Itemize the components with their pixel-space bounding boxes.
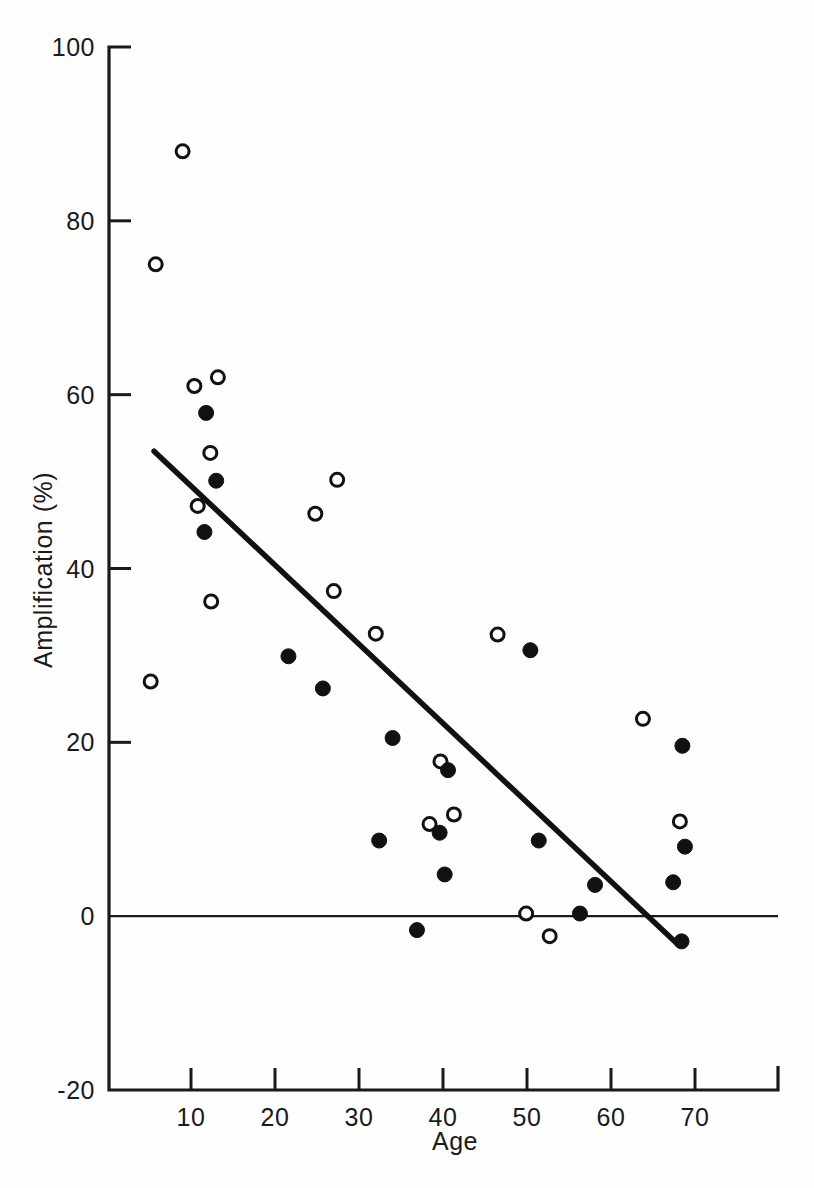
data-point-open — [309, 507, 322, 520]
data-point-open — [211, 371, 224, 384]
y-tick-label: 0 — [81, 902, 95, 930]
data-point-open — [205, 595, 218, 608]
tick-labels-group: -2002040608010010203040506070 — [52, 33, 710, 1131]
data-point-open — [369, 627, 382, 640]
y-axis-title: Amplification (%) — [29, 472, 57, 668]
data-point-filled — [523, 643, 538, 658]
data-point-filled — [437, 867, 452, 882]
data-point-open — [491, 628, 504, 641]
data-point-filled — [209, 473, 224, 488]
data-point-filled — [666, 875, 681, 890]
data-point-open — [673, 815, 686, 828]
y-tick-label: -20 — [57, 1076, 95, 1104]
x-tick-label: 70 — [681, 1103, 710, 1131]
x-tick-label: 50 — [513, 1103, 542, 1131]
regression-line — [154, 451, 678, 945]
data-point-filled — [432, 825, 447, 840]
y-tick-label: 60 — [66, 381, 95, 409]
y-tick-label: 80 — [66, 207, 95, 235]
data-point-open — [149, 258, 162, 271]
figure-container: -2002040608010010203040506070 Age Amplif… — [0, 0, 814, 1188]
x-tick-label: 30 — [345, 1103, 374, 1131]
axis-spines — [109, 47, 778, 1090]
data-point-open — [636, 712, 649, 725]
data-point-open — [144, 675, 157, 688]
data-point-filled — [441, 763, 456, 778]
data-point-open — [447, 808, 460, 821]
y-tick-label: 100 — [52, 33, 95, 61]
data-point-open — [191, 499, 204, 512]
y-tick-label: 20 — [66, 728, 95, 756]
data-point-filled — [197, 524, 212, 539]
data-point-filled — [531, 833, 546, 848]
data-point-open — [543, 930, 556, 943]
data-point-open — [188, 379, 201, 392]
data-point-filled — [674, 934, 689, 949]
data-point-filled — [677, 839, 692, 854]
x-axis-title: Age — [432, 1127, 478, 1155]
data-points-group — [144, 145, 692, 949]
data-point-open — [327, 585, 340, 598]
data-point-open — [176, 145, 189, 158]
data-point-filled — [385, 730, 400, 745]
data-point-open — [331, 473, 344, 486]
data-point-filled — [315, 681, 330, 696]
data-point-open — [204, 446, 217, 459]
scatter-plot: -2002040608010010203040506070 Age Amplif… — [0, 0, 814, 1188]
x-tick-label: 10 — [177, 1103, 206, 1131]
axes-group — [109, 47, 778, 1090]
x-tick-label: 20 — [261, 1103, 290, 1131]
data-point-filled — [372, 833, 387, 848]
data-point-filled — [572, 906, 587, 921]
data-point-filled — [588, 877, 603, 892]
x-tick-label: 60 — [597, 1103, 626, 1131]
y-tick-label: 40 — [66, 555, 95, 583]
data-point-open — [520, 907, 533, 920]
tick-marks-group — [109, 221, 695, 1090]
data-point-filled — [409, 923, 424, 938]
data-point-filled — [199, 405, 214, 420]
data-point-filled — [675, 738, 690, 753]
data-point-filled — [281, 649, 296, 664]
